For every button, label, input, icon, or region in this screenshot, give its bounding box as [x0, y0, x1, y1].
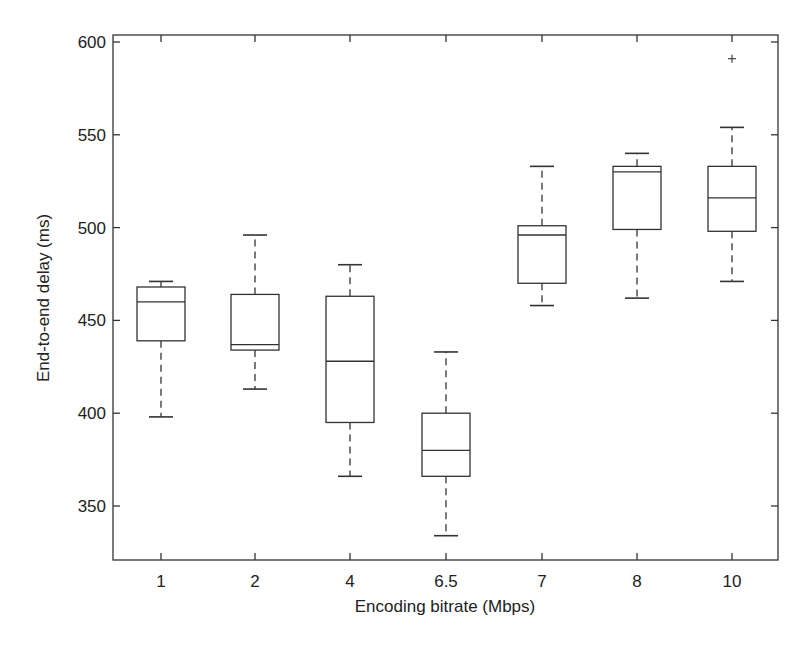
iqr-box	[422, 413, 470, 476]
x-tick-label: 7	[537, 572, 546, 591]
iqr-box	[326, 296, 374, 422]
boxes	[137, 55, 756, 536]
x-tick-label: 6.5	[434, 572, 458, 591]
box-plot-chart: 350400450500550600 1246.57810 Encoding b…	[0, 0, 806, 655]
x-tick-label: 4	[345, 572, 354, 591]
y-tick-label: 450	[78, 311, 106, 330]
y-tick-label: 550	[78, 126, 106, 145]
box-1	[137, 281, 185, 416]
box-2	[231, 235, 279, 389]
iqr-box	[613, 166, 661, 229]
y-axis-label: End-to-end delay (ms)	[34, 214, 53, 382]
y-tick-label: 350	[78, 497, 106, 516]
x-axis-label: Encoding bitrate (Mbps)	[355, 597, 535, 616]
iqr-box	[137, 287, 185, 341]
x-tick-label: 1	[156, 572, 165, 591]
box-8	[613, 153, 661, 298]
x-tick-label: 2	[250, 572, 259, 591]
iqr-box	[708, 166, 756, 231]
box-6_5	[422, 352, 470, 536]
box-7	[518, 166, 566, 305]
iqr-box	[231, 294, 279, 350]
y-tick-label: 600	[78, 33, 106, 52]
x-tick-label: 8	[632, 572, 641, 591]
y-tick-label: 400	[78, 404, 106, 423]
box-10	[708, 55, 756, 282]
y-tick-label: 500	[78, 219, 106, 238]
box-4	[326, 265, 374, 477]
x-tick-label: 10	[723, 572, 742, 591]
